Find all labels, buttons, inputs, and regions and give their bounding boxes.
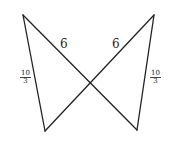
right-diagonal-label: 6: [112, 37, 120, 51]
right-side-denominator: 3: [153, 78, 157, 85]
right-side-label: 10 3: [150, 70, 161, 85]
left-diagonal-label: 6: [60, 37, 68, 51]
right-diagonal-segment: [45, 15, 154, 131]
left-diagonal-segment: [23, 15, 137, 130]
diagram-canvas: 6 6 10 3 10 3: [0, 0, 174, 156]
left-side-label: 10 3: [20, 70, 31, 85]
left-side-denominator: 3: [23, 78, 27, 85]
